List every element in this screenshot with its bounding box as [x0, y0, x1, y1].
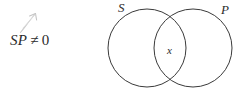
not-equal-symbol: ≠ — [27, 32, 42, 48]
expression-left-term: SP — [10, 32, 27, 48]
circle-p — [154, 9, 232, 87]
expression-right-term: 0 — [42, 32, 50, 48]
circle-s — [108, 9, 186, 87]
expression-sp-not-equal-zero: SP≠0 — [10, 32, 50, 49]
pencil-arrow-icon — [18, 6, 48, 34]
figure-canvas: SP≠0 S P x — [0, 0, 245, 95]
intersection-x-mark: x — [167, 44, 172, 56]
venn-diagram: S P x — [103, 0, 245, 95]
circle-s-label: S — [118, 0, 125, 16]
circle-p-label: P — [221, 2, 229, 18]
